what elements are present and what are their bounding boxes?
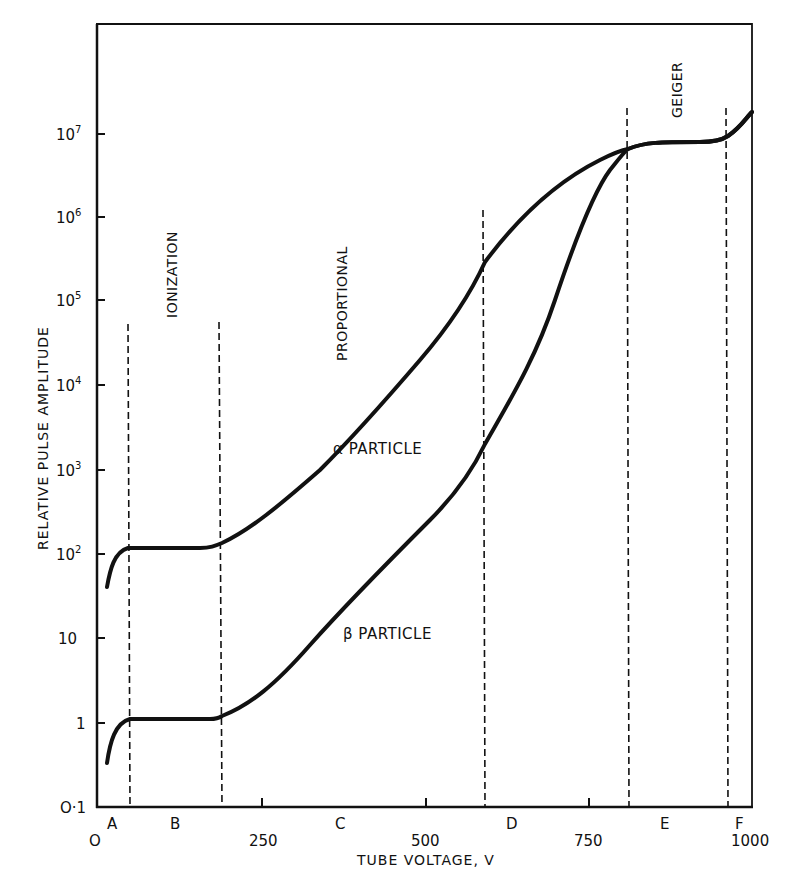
boundary-a-b bbox=[128, 324, 130, 807]
x-tick-750: 750 bbox=[574, 832, 603, 850]
svg-text:106: 106 bbox=[56, 207, 81, 227]
beta-curve-label: β PARTICLE bbox=[343, 625, 432, 643]
x-tick-500: 500 bbox=[411, 832, 440, 850]
pulse-amplitude-chart: 107 106 105 104 103 102 10 1 O·1 O 250 5… bbox=[0, 0, 795, 882]
x-tick-0: O bbox=[89, 832, 101, 850]
svg-text:102: 102 bbox=[56, 544, 81, 564]
region-name-ionization: IONIZATION bbox=[164, 231, 180, 318]
region-letter-d: D bbox=[506, 815, 518, 833]
y-tick-0-1: O·1 bbox=[60, 799, 86, 817]
svg-text:104: 104 bbox=[56, 375, 81, 395]
svg-text:105: 105 bbox=[56, 290, 81, 310]
x-tick-labels: O 250 500 750 1000 bbox=[89, 832, 769, 850]
x-tick-250: 250 bbox=[249, 832, 278, 850]
region-letters: A B C D E F bbox=[107, 815, 744, 833]
y-tick-labels: 107 106 105 104 103 102 10 1 O·1 bbox=[56, 124, 86, 817]
x-tick-1000: 1000 bbox=[731, 832, 769, 850]
y-tick-1: 1 bbox=[76, 715, 86, 733]
boundary-e-f bbox=[726, 108, 728, 807]
x-axis-title: TUBE VOLTAGE, V bbox=[356, 852, 495, 868]
y-tick-10: 10 bbox=[58, 630, 77, 648]
region-name-proportional: PROPORTIONAL bbox=[334, 246, 350, 361]
region-letter-c: C bbox=[335, 815, 345, 833]
plot-frame bbox=[96, 23, 753, 808]
region-letter-e: E bbox=[660, 815, 669, 833]
region-boundaries bbox=[128, 108, 728, 807]
region-letter-b: B bbox=[170, 815, 180, 833]
boundary-c-d bbox=[483, 210, 485, 807]
region-name-geiger: GEIGER bbox=[669, 62, 685, 118]
svg-text:107: 107 bbox=[56, 124, 81, 144]
alpha-curve-label: α PARTICLE bbox=[333, 440, 422, 458]
alpha-particle-curve bbox=[107, 112, 752, 587]
boundary-b-c bbox=[219, 322, 222, 807]
region-letter-a: A bbox=[107, 815, 118, 833]
beta-particle-curve bbox=[107, 112, 752, 763]
region-letter-f: F bbox=[735, 815, 744, 833]
x-ticks bbox=[262, 798, 589, 807]
y-axis-title: RELATIVE PULSE AMPLITUDE bbox=[35, 326, 51, 550]
svg-text:103: 103 bbox=[56, 460, 81, 480]
boundary-d-e bbox=[627, 108, 629, 807]
